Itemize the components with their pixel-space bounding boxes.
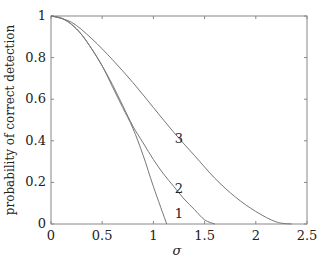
y-tick-label: 0.2	[25, 174, 46, 189]
series-line-3	[51, 16, 292, 224]
x-tick-label: 1	[149, 228, 157, 243]
chart: 00.511.522.500.20.40.60.81σprobability o…	[0, 0, 327, 257]
y-tick-label: 0.8	[25, 50, 46, 65]
x-tick-label: 2.5	[297, 228, 318, 243]
y-tick-label: 0	[38, 216, 46, 231]
curve-label-1: 1	[175, 206, 183, 221]
x-tick-label: 0	[47, 228, 55, 243]
y-tick-label: 0.6	[25, 91, 46, 106]
series-line-2	[51, 16, 215, 224]
y-axis-label: probability of correct detection	[3, 24, 17, 215]
curve-label-2: 2	[175, 181, 183, 196]
x-tick-label: 2	[252, 228, 260, 243]
x-tick-label: 1.5	[194, 228, 215, 243]
series-line-1	[51, 16, 167, 224]
x-axis-label: σ	[173, 243, 183, 257]
y-tick-label: 0.4	[25, 133, 46, 148]
curve-label-3: 3	[175, 131, 183, 146]
y-tick-label: 1	[38, 8, 46, 23]
x-tick-label: 0.5	[92, 228, 113, 243]
